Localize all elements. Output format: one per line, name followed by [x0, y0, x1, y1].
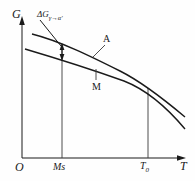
delta-g-subscript: γ→α′ [49, 14, 63, 21]
origin-label: O [15, 161, 24, 173]
x-axis [22, 155, 186, 161]
x-axis-label: T [180, 160, 187, 172]
delta-g-annotation-label: ΔGγ→α′ [37, 10, 63, 21]
free-energy-temperature-diagram: G T O Ms T0 A M ΔGγ→α′ [0, 0, 195, 181]
martensite-curve [25, 49, 185, 129]
y-axis-label: G [12, 8, 21, 20]
y-axis [19, 16, 25, 158]
a-label-leader-line [93, 45, 105, 57]
tick-label-t0: T0 [140, 161, 149, 174]
tick-label-ms: Ms [53, 162, 65, 172]
delta-g-leader-line [40, 20, 61, 46]
curve-label-martensite: M [92, 82, 101, 92]
delta-g-symbol: ΔG [37, 9, 49, 19]
tick-label-t0-subscript: 0 [146, 166, 150, 174]
curve-label-austenite: A [103, 34, 110, 44]
